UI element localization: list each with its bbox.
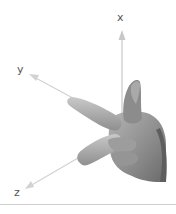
bottom-divider — [0, 204, 176, 205]
z-axis-label: z — [14, 187, 20, 198]
y-axis-label: y — [17, 64, 24, 75]
right-hand-rule-diagram — [0, 0, 176, 214]
z-axis-arrow — [25, 158, 78, 189]
x-axis-label: x — [117, 12, 124, 23]
hand-illustration — [67, 80, 167, 182]
